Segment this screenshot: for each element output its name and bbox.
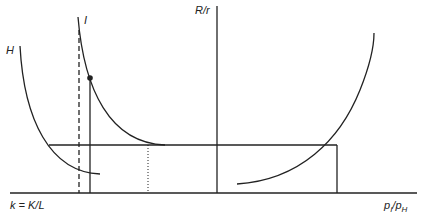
curve-right bbox=[237, 33, 374, 184]
diagram-canvas bbox=[0, 0, 422, 216]
tangency-point bbox=[87, 75, 93, 81]
curve-h bbox=[20, 46, 100, 174]
label-x-right: pI/pH bbox=[384, 199, 407, 214]
label-x-left: k = K/L bbox=[10, 199, 45, 211]
label-y-axis: R/r bbox=[195, 4, 210, 16]
curve-i bbox=[78, 17, 165, 145]
label-i: I bbox=[84, 14, 87, 26]
label-h: H bbox=[6, 44, 14, 56]
